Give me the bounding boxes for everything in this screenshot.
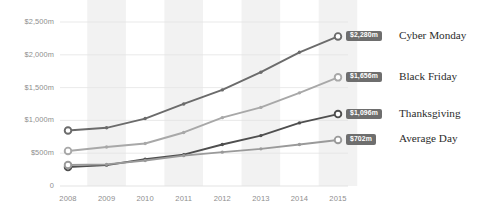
x-axis-tick-2011: 2011 bbox=[166, 194, 202, 203]
y-axis-tick-1: $500m bbox=[0, 148, 54, 157]
y-axis-tick-4: $2,000m bbox=[0, 50, 54, 59]
line-chart: 0$500m$1,000m$1,500m$2,000m$2,500m 20082… bbox=[0, 0, 497, 216]
x-axis-tick-2014: 2014 bbox=[281, 194, 317, 203]
series-label-cyber-monday: Cyber Monday bbox=[399, 29, 466, 41]
series-label-black-friday: Black Friday bbox=[399, 70, 457, 82]
value-badge-black-friday: $1,656m bbox=[346, 72, 382, 82]
x-axis-tick-2012: 2012 bbox=[204, 194, 240, 203]
series-label-thanksgiving: Thanksgiving bbox=[399, 107, 461, 119]
series-label-average-day: Average Day bbox=[399, 132, 458, 144]
value-badge-thanksgiving: $1,096m bbox=[346, 109, 382, 119]
x-axis-tick-2008: 2008 bbox=[50, 194, 86, 203]
value-badge-average-day: $702m bbox=[346, 134, 376, 144]
value-badge-cyber-monday: $2,280m bbox=[346, 31, 382, 41]
y-axis-tick-2: $1,000m bbox=[0, 115, 54, 124]
x-axis-tick-2009: 2009 bbox=[89, 194, 125, 203]
alternating-bands bbox=[87, 0, 357, 186]
y-axis-tick-3: $1,500m bbox=[0, 83, 54, 92]
x-axis-tick-2010: 2010 bbox=[127, 194, 163, 203]
x-axis-tick-2015: 2015 bbox=[320, 194, 356, 203]
y-axis-tick-0: 0 bbox=[0, 181, 54, 190]
x-axis-tick-2013: 2013 bbox=[243, 194, 279, 203]
y-axis-tick-5: $2,500m bbox=[0, 17, 54, 26]
